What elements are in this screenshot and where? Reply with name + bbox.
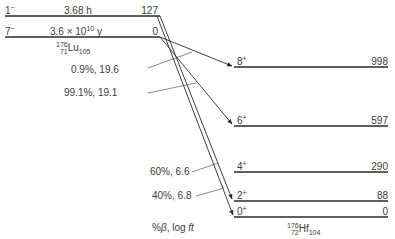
level-spin-4plus: 4+ (237, 161, 247, 172)
beta-arrow-7minus-to-6plus (160, 37, 232, 124)
branch-label-99.1: 99.1%, 19.1 (64, 87, 117, 98)
level-spin-1minus: 1− (5, 5, 15, 16)
daughter-nucleus-label: 17672Hf104 (287, 222, 320, 236)
level-energy-998: 998 (340, 56, 388, 67)
level-spin-2plus: 2+ (237, 190, 247, 201)
leader-line-40 (196, 188, 224, 196)
level-spin-0plus: 0+ (237, 206, 247, 217)
branch-label-60: 60%, 6.6 (150, 166, 189, 177)
beta-arrow-1minus-to-0plus (157, 16, 233, 215)
branch-label-0.9: 0.9%, 19.6 (71, 64, 119, 75)
level-spin-8plus: 8+ (237, 56, 247, 67)
level-energy-88: 88 (340, 190, 388, 201)
level-halflife-7minus: 3.6 × 1010 y (50, 26, 102, 37)
level-halflife-1minus: 3.68 h (64, 5, 92, 16)
level-energy-290: 290 (340, 161, 388, 172)
branch-label-40: 40%, 6.8 (152, 190, 191, 201)
leader-line-60 (192, 163, 218, 172)
level-spin-7minus: 7− (5, 26, 15, 37)
level-energy-597: 597 (340, 115, 388, 126)
leader-line-0.9 (148, 52, 192, 68)
level-energy-127: 127 (126, 5, 158, 16)
axis-caption: %β, log ft (152, 222, 194, 233)
level-spin-6plus: 6+ (237, 115, 247, 126)
parent-nucleus-label: 17671Lu105 (56, 41, 91, 55)
level-energy-0-parent: 0 (126, 26, 158, 37)
level-energy-0-daughter: 0 (340, 206, 388, 217)
